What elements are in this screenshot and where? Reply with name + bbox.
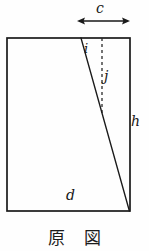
outer-rectangle bbox=[7, 38, 130, 211]
c-dimension-arrow bbox=[77, 17, 130, 24]
technical-diagram bbox=[0, 0, 149, 251]
point-label-j: j bbox=[104, 69, 108, 83]
figure-caption: 原 図 bbox=[0, 224, 149, 249]
figure-container: c i j h d 原 図 bbox=[0, 0, 149, 251]
slanted-cut-line bbox=[81, 38, 129, 211]
point-label-i: i bbox=[84, 42, 88, 55]
dimension-label-d: d bbox=[66, 188, 75, 202]
dimension-label-h: h bbox=[131, 114, 140, 128]
dimension-label-c: c bbox=[96, 1, 104, 15]
